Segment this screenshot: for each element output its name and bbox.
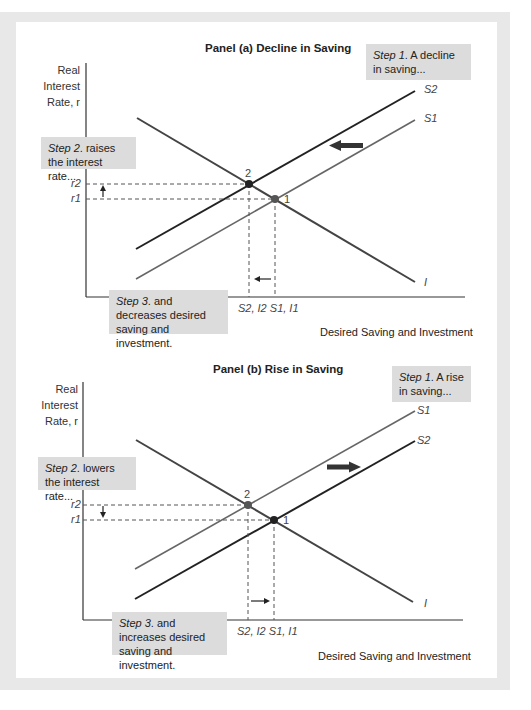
y-label-line-2: Interest [20, 78, 80, 94]
panel-b-i-label: I [424, 597, 427, 609]
step2-prefix: Step 2 [48, 142, 80, 154]
step1-prefix: Step 1 [399, 371, 431, 383]
step1-prefix: Step 1 [373, 49, 405, 61]
panel-a-i-label: I [424, 276, 427, 288]
panel-a-point-1-label: 1 [284, 193, 290, 205]
panel-a-r2-label: r2 [71, 177, 81, 189]
y-label-line-3: Rate, r [18, 413, 78, 429]
panel-b-quantity-labels: S2, I2 S1, I1 [237, 625, 298, 637]
step3-prefix: Step 3 [116, 295, 148, 307]
panel-b-point-2-label: 2 [244, 488, 250, 500]
panel-b-title: Panel (b) Rise in Saving [213, 363, 343, 375]
y-label-line-2: Interest [18, 397, 78, 413]
panel-b-x-axis-label: Desired Saving and Investment [318, 650, 471, 662]
panel-a-graphics [86, 63, 465, 297]
panel-a-point-2-label: 2 [245, 167, 251, 179]
panel-b-s1-label: S1 [417, 404, 430, 416]
panel-a-step2-box: Step 2. raises the interest rate... [41, 137, 136, 169]
panel-b-graphics [83, 382, 463, 620]
y-label-line-1: Real [20, 62, 80, 78]
panel-a-s2-label: S2 [424, 83, 437, 95]
panel-b-step1-box: Step 1. A rise in saving... [392, 366, 471, 402]
y-label-line-1: Real [18, 381, 78, 397]
panel-a-step3-box: Step 3. and decreases desired saving and… [109, 290, 228, 334]
panel-a-s1-label: S1 [424, 112, 437, 124]
panel-b-s2-label: S2 [417, 434, 430, 446]
panel-b-y-axis-label: Real Interest Rate, r [18, 381, 78, 429]
panel-a-r1-label: r1 [71, 192, 81, 204]
panel-a-y-axis-label: Real Interest Rate, r [20, 62, 80, 110]
panel-b-r2-label: r2 [71, 498, 81, 510]
panel-a-quantity-labels: S2, I2 S1, I1 [238, 302, 299, 314]
step3-prefix: Step 3 [119, 617, 151, 629]
panel-a-x-axis-label: Desired Saving and Investment [320, 326, 473, 338]
panel-b-step2-box: Step 2. lowers the interest rate... [38, 457, 136, 490]
y-label-line-3: Rate, r [20, 94, 80, 110]
panel-a-title: Panel (a) Decline in Saving [205, 42, 351, 54]
panel-a-step1-box: Step 1. A decline in saving... [366, 44, 471, 80]
panel-b-step3-box: Step 3. and increases desired saving and… [112, 612, 227, 655]
panel-b-r1-label: r1 [71, 513, 81, 525]
panel-b-point-1-label: 1 [283, 514, 289, 526]
step2-prefix: Step 2 [45, 462, 77, 474]
